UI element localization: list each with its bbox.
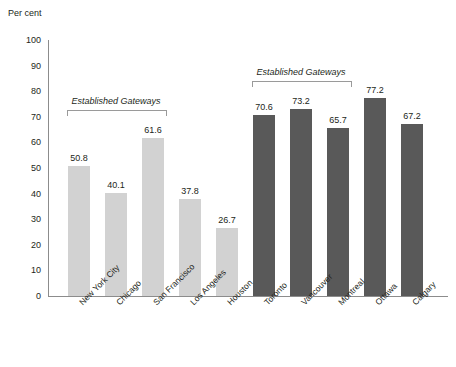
bars-layer: 50.840.161.637.826.770.673.265.777.267.2: [48, 40, 448, 296]
bar-value-label: 61.6: [144, 125, 162, 135]
bar: 77.2: [364, 98, 386, 296]
bar-value-label: 50.8: [70, 153, 88, 163]
y-axis-tick-label: 0: [36, 291, 48, 301]
bar-value-label: 26.7: [218, 215, 236, 225]
bar-value-label: 77.2: [366, 85, 384, 95]
y-axis-tick-label: 70: [31, 112, 48, 122]
annotation-label: Established Gateways: [256, 67, 345, 77]
y-axis-tick-label: 80: [31, 86, 48, 96]
y-axis-tick-label: 40: [31, 189, 48, 199]
y-axis-tick-label: 50: [31, 163, 48, 173]
bar-value-label: 37.8: [181, 186, 199, 196]
bar-value-label: 65.7: [329, 115, 347, 125]
y-axis-tick-label: 60: [31, 137, 48, 147]
bar-chart: Per cent 0102030405060708090100 50.840.1…: [0, 0, 456, 367]
bar: 70.6: [253, 115, 275, 296]
bar: 26.7: [216, 228, 238, 296]
y-axis-tick-label: 30: [31, 214, 48, 224]
y-axis-title: Per cent: [8, 8, 42, 18]
bar: 61.6: [142, 138, 164, 296]
bar-value-label: 40.1: [107, 180, 125, 190]
y-axis-tick-label: 20: [31, 240, 48, 250]
annotation-bracket: [67, 110, 167, 116]
y-axis-tick-label: 100: [26, 35, 48, 45]
bar-value-label: 70.6: [255, 102, 273, 112]
bar: 50.8: [68, 166, 90, 296]
annotation-label: Established Gateways: [71, 96, 160, 106]
bar: 65.7: [327, 128, 349, 296]
annotation-bracket: [252, 81, 352, 87]
bar-value-label: 67.2: [403, 111, 421, 121]
y-axis-tick-label: 90: [31, 61, 48, 71]
bar-value-label: 73.2: [292, 96, 310, 106]
x-axis-labels: New York CityChicagoSan FranciscoLos Ang…: [48, 300, 448, 366]
bar: 73.2: [290, 109, 312, 296]
y-axis-tick-label: 10: [31, 265, 48, 275]
bar: 67.2: [401, 124, 423, 296]
